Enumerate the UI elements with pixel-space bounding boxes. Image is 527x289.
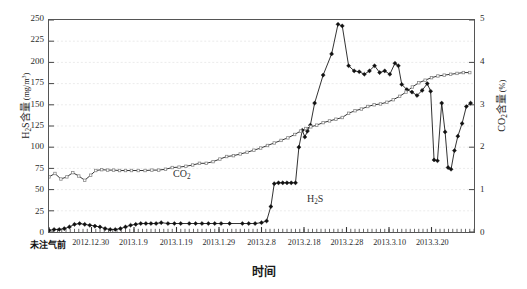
y-axis-left-tick-label: 250: [10, 13, 44, 23]
y-axis-left-tick-label: 0: [10, 227, 44, 237]
chart-figure: 0255075100125150175200225250 012345 CO2 …: [0, 0, 527, 289]
y-axis-right-tick-label: 5: [480, 13, 504, 23]
data-layer: [49, 20, 474, 232]
y-axis-right-tick-label: 1: [480, 184, 504, 194]
y-axis-left-title: H2S含量 (mg/m3): [17, 36, 33, 176]
y-axis-right-tick-label: 0: [480, 227, 504, 237]
series-annotation-h2s: H2S: [307, 193, 323, 206]
y-axis-left-tick-label: 50: [10, 184, 44, 194]
y-axis-right-title: CO2含量 (%): [493, 36, 509, 176]
series-co2: [49, 71, 471, 181]
x-axis-title: 时间: [0, 262, 527, 279]
x-axis-tick-label: 2013.3.20: [392, 238, 472, 247]
y-axis-left-tick-label: 25: [10, 206, 44, 216]
plot-area: CO2 H2S: [48, 19, 475, 233]
series-annotation-co2: CO2: [173, 168, 191, 181]
series-h2s: [49, 22, 473, 232]
